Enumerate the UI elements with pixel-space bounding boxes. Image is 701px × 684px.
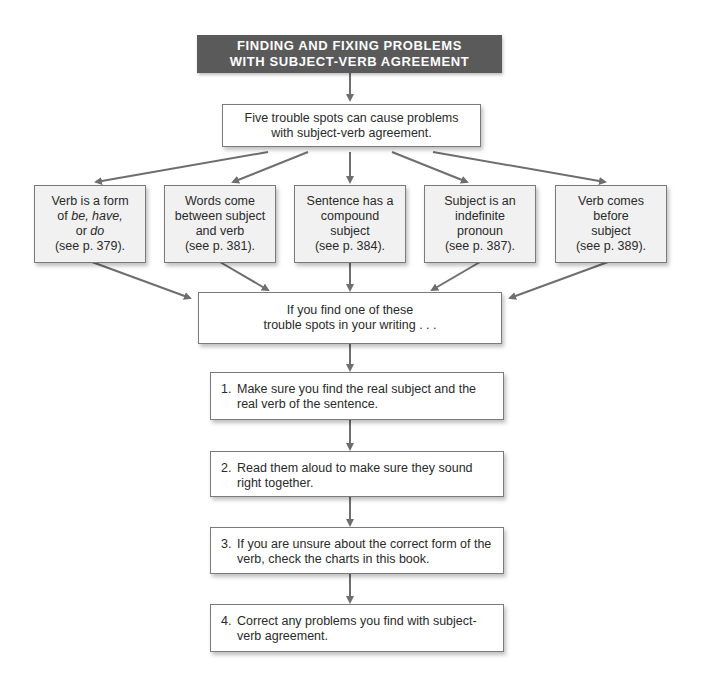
italic-verb: do [90,224,104,238]
step-text: Make sure you find the real subject and … [237,382,493,419]
trouble-line: Verb is a form [35,194,145,209]
title-line-2: WITH SUBJECT-VERB AGREEMENT [197,54,502,70]
step-text: Read them aloud to make sure they sound … [237,461,493,496]
if-you-find-box: If you find one of these trouble spots i… [198,292,502,344]
if-line-1: If you find one of these [199,303,501,318]
italic-verbs: be, have, [71,209,122,223]
trouble-spot-words-between: Words come between subject and verb (see… [164,185,276,263]
trouble-line: Sentence has a [295,194,405,209]
trouble-spot-be-have-do: Verb is a form of be, have, or do (see p… [34,185,146,263]
if-line-2: trouble spots in your writing . . . [199,318,501,333]
trouble-line: Verb comes [556,194,666,209]
page-reference: (see p. 384). [295,239,405,254]
trouble-line: or do [35,224,145,239]
trouble-spot-compound-subject: Sentence has a compound subject (see p. … [294,185,406,263]
step-text: Correct any problems you find with subje… [237,614,493,651]
trouble-line: subject [556,224,666,239]
trouble-line: before [556,209,666,224]
step-4-box: 4. Correct any problems you find with su… [210,604,504,652]
trouble-line: of be, have, [35,209,145,224]
step-1-box: 1. Make sure you find the real subject a… [210,372,504,420]
page-reference: (see p. 389). [556,239,666,254]
trouble-spot-verb-before-subject: Verb comes before subject (see p. 389). [555,185,667,263]
page-reference: (see p. 387). [425,239,535,254]
trouble-line: and verb [165,224,275,239]
page-reference: (see p. 381). [165,239,275,254]
trouble-line: subject [295,224,405,239]
step-number: 1. [221,382,237,419]
intro-line-2: with subject-verb agreement. [223,126,480,141]
text-fragment: or [76,224,91,238]
text-fragment: of [57,209,71,223]
step-number: 4. [221,614,237,651]
step-text: If you are unsure about the correct form… [237,537,493,573]
trouble-line: compound [295,209,405,224]
trouble-line: pronoun [425,224,535,239]
step-number: 2. [221,461,237,496]
intro-box: Five trouble spots can cause problems wi… [222,104,481,147]
trouble-line: indefinite [425,209,535,224]
trouble-line: between subject [165,209,275,224]
page-reference: (see p. 379). [35,239,145,254]
intro-line-1: Five trouble spots can cause problems [223,111,480,126]
step-3-box: 3. If you are unsure about the correct f… [210,527,504,574]
step-2-box: 2. Read them aloud to make sure they sou… [210,451,504,497]
trouble-spot-indefinite-pronoun: Subject is an indefinite pronoun (see p.… [424,185,536,263]
step-number: 3. [221,537,237,573]
diagram-title: FINDING AND FIXING PROBLEMS WITH SUBJECT… [197,35,502,73]
trouble-line: Words come [165,194,275,209]
trouble-line: Subject is an [425,194,535,209]
title-line-1: FINDING AND FIXING PROBLEMS [197,38,502,54]
